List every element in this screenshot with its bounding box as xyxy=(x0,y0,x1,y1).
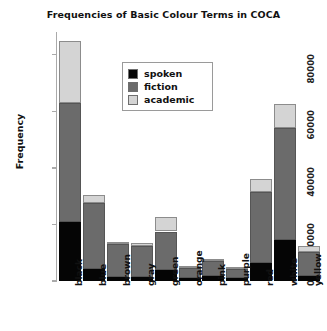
chart-legend: spokenfictionacademic xyxy=(122,62,213,111)
bar-segment-black-academic[interactable] xyxy=(59,41,81,103)
bar-segment-pink-academic[interactable] xyxy=(202,259,224,261)
y-tick-mark xyxy=(52,280,57,281)
legend-item-fiction[interactable]: fiction xyxy=(128,80,207,93)
legend-swatch-academic xyxy=(128,95,138,105)
x-tick-label-gray: gray xyxy=(146,263,156,286)
bar-yellow[interactable] xyxy=(298,32,320,281)
legend-label-spoken: spoken xyxy=(144,69,182,79)
y-tick-mark xyxy=(52,167,57,168)
bar-segment-brown-academic[interactable] xyxy=(107,242,129,244)
bar-segment-black-fiction[interactable] xyxy=(59,103,81,222)
legend-item-spoken[interactable]: spoken xyxy=(128,67,207,80)
bar-purple[interactable] xyxy=(226,32,248,281)
bar-segment-gray-academic[interactable] xyxy=(131,243,153,246)
x-tick-label-black: black xyxy=(74,259,84,286)
x-tick-label-blue: blue xyxy=(98,264,108,286)
legend-label-academic: academic xyxy=(144,95,194,105)
bar-black[interactable] xyxy=(59,32,81,281)
bar-white[interactable] xyxy=(274,32,296,281)
x-tick-label-red: red xyxy=(265,269,275,286)
bar-red[interactable] xyxy=(250,32,272,281)
bar-blue[interactable] xyxy=(83,32,105,281)
legend-swatch-spoken xyxy=(128,69,138,79)
y-tick-mark xyxy=(52,111,57,112)
bar-segment-white-academic[interactable] xyxy=(274,104,296,128)
chart-title: Frequencies of Basic Colour Terms in COC… xyxy=(0,9,327,20)
legend-swatch-fiction xyxy=(128,82,138,92)
bar-segment-green-academic[interactable] xyxy=(155,217,177,231)
legend-label-fiction: fiction xyxy=(144,82,178,92)
bar-segment-blue-fiction[interactable] xyxy=(83,203,105,269)
x-tick-label-green: green xyxy=(170,257,180,287)
legend-item-academic[interactable]: academic xyxy=(128,93,207,106)
x-tick-label-orange: orange xyxy=(194,250,204,286)
bar-segment-white-fiction[interactable] xyxy=(274,128,296,240)
y-tick-mark xyxy=(52,224,57,225)
x-tick-label-white: white xyxy=(289,258,299,286)
bar-segment-red-academic[interactable] xyxy=(250,179,272,192)
bar-segment-blue-academic[interactable] xyxy=(83,195,105,203)
x-tick-label-yellow: yellow xyxy=(313,253,323,286)
x-tick-label-brown: brown xyxy=(122,254,132,286)
y-tick-mark xyxy=(52,54,57,55)
bar-segment-yellow-academic[interactable] xyxy=(298,246,320,252)
x-tick-label-purple: purple xyxy=(241,253,251,286)
chart-figure: Frequencies of Basic Colour Terms in COC… xyxy=(0,0,327,331)
y-axis-line xyxy=(56,32,57,281)
y-axis-label: Frequency xyxy=(14,87,25,197)
bar-segment-red-fiction[interactable] xyxy=(250,192,272,263)
x-tick-label-pink: pink xyxy=(217,264,227,286)
